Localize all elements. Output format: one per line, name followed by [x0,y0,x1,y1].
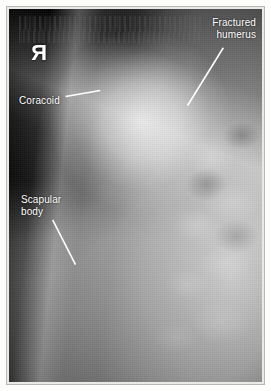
right-side-marker: R [31,42,47,64]
label-fractured-humerus: Fractured humerus [212,17,256,40]
xray-film: R Fractured humerus Coracoid Scapular bo… [9,9,262,382]
radiograph-figure: R Fractured humerus Coracoid Scapular bo… [0,0,271,391]
label-scapular-body: Scapular body [21,194,61,217]
image-frame: R Fractured humerus Coracoid Scapular bo… [6,6,265,385]
label-coracoid: Coracoid [19,95,60,107]
film-annotation-strip [19,16,201,42]
